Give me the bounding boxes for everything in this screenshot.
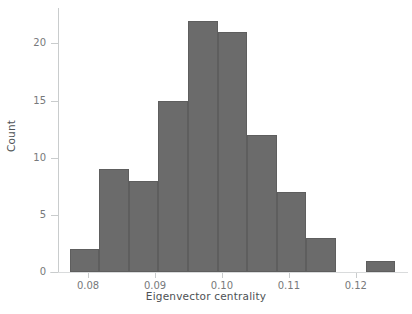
y-tick-mark	[51, 215, 58, 216]
histogram-bar	[277, 192, 307, 272]
plot-area	[58, 8, 404, 272]
y-tick-label: 10	[0, 153, 46, 163]
y-tick-label: 5	[0, 210, 46, 220]
histogram-bar	[188, 21, 218, 272]
histogram-bar	[366, 261, 396, 272]
y-tick-mark	[51, 43, 58, 44]
histogram-bar	[218, 32, 248, 272]
y-tick-label: 15	[0, 96, 46, 106]
y-axis-title-text: Count	[5, 120, 17, 152]
y-tick-mark	[51, 101, 58, 102]
histogram-bar	[306, 238, 336, 272]
y-tick-mark	[51, 272, 58, 273]
x-tick-mark	[289, 273, 290, 278]
x-tick-mark	[155, 273, 156, 278]
y-tick-label: 0	[0, 267, 46, 277]
y-tick-label: 20	[0, 38, 46, 48]
x-axis-line	[50, 272, 408, 273]
histogram-bar	[247, 135, 277, 272]
histogram-bar	[158, 101, 188, 272]
x-tick-mark	[356, 273, 357, 278]
x-tick-mark	[222, 273, 223, 278]
histogram-bar	[99, 169, 129, 272]
histogram-figure: Count 05101520 0.080.090.100.110.12 Eige…	[0, 0, 412, 314]
x-axis-title: Eigenvector centrality	[0, 290, 412, 302]
histogram-bar	[70, 249, 100, 272]
x-tick-mark	[88, 273, 89, 278]
histogram-bar	[129, 181, 159, 272]
y-tick-mark	[51, 158, 58, 159]
